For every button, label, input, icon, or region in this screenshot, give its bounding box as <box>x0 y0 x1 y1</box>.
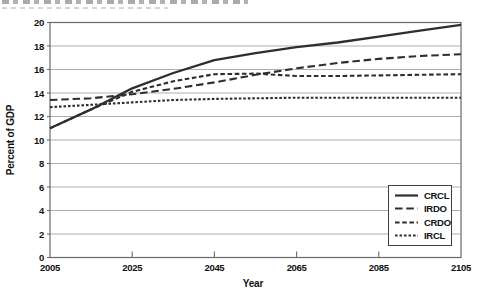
x-tick-label-2005: 2005 <box>40 262 61 273</box>
clipped-text-fragment <box>2 0 248 4</box>
y-tick-label-16: 16 <box>34 64 44 75</box>
x-tick-label-2105: 2105 <box>451 262 472 273</box>
chart-canvas: 02468101214161820 2005202520452065208521… <box>0 0 483 300</box>
y-tick-label-2: 2 <box>39 229 44 240</box>
y-tick-label-12: 12 <box>34 111 44 122</box>
series-line-crdo <box>50 74 461 129</box>
y-tick-label-10: 10 <box>34 135 44 146</box>
line-chart-figure: 02468101214161820 2005202520452065208521… <box>0 0 483 300</box>
legend-line-sample-ircl <box>394 229 419 242</box>
y-axis-tick-labels: 02468101214161820 <box>34 17 45 263</box>
y-axis-title: Percent of GDP <box>5 104 16 175</box>
y-tick-label-20: 20 <box>34 17 44 28</box>
y-tick-label-18: 18 <box>34 41 44 52</box>
legend-label-ircl: IRCL <box>424 229 445 242</box>
legend-entry-crdo: CRDO <box>394 216 451 229</box>
series-line-crcl <box>50 25 461 129</box>
y-tick-label-6: 6 <box>39 182 44 193</box>
legend-line-sample-crcl <box>394 189 419 202</box>
legend-entry-ircl: IRCL <box>394 229 451 242</box>
legend-label-crdo: CRDO <box>424 216 451 229</box>
y-tick-label-14: 14 <box>34 88 45 99</box>
legend-label-irdo: IRDO <box>424 202 447 215</box>
legend-line-sample-crdo <box>394 216 419 229</box>
x-axis-title: Year <box>243 278 264 289</box>
chart-legend: CRCLIRDOCRDOIRCL <box>388 185 452 246</box>
x-tick-label-2025: 2025 <box>122 262 143 273</box>
data-series-lines <box>50 25 461 129</box>
x-tick-label-2065: 2065 <box>287 262 308 273</box>
legend-label-crcl: CRCL <box>424 189 449 202</box>
x-axis-tick-labels: 200520252045206520852105 <box>40 262 472 273</box>
legend-line-sample-irdo <box>394 202 419 215</box>
clipped-text-fragment-2 <box>2 7 168 9</box>
x-tick-label-2085: 2085 <box>369 262 390 273</box>
y-tick-label-8: 8 <box>39 158 44 169</box>
legend-entry-irdo: IRDO <box>394 202 451 215</box>
x-tick-label-2045: 2045 <box>204 262 225 273</box>
y-tick-label-4: 4 <box>39 205 45 216</box>
legend-entry-crcl: CRCL <box>394 189 451 202</box>
